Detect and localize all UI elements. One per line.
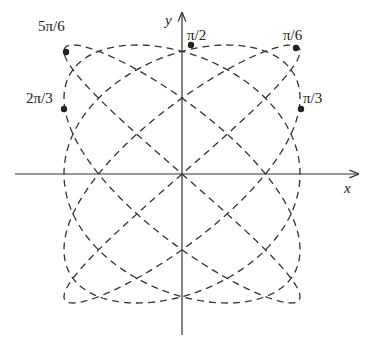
label-pi-2: π/2 [187, 27, 206, 43]
x-axis-label: x [343, 180, 351, 196]
y-axis-label: y [163, 12, 172, 28]
lissajous-figure: x y 5π/6 2π/3 π/2 π/6 π/3 [0, 0, 370, 351]
label-2pi-3: 2π/3 [26, 90, 53, 106]
label-pi-3: π/3 [303, 90, 322, 106]
label-5pi-6: 5π/6 [38, 18, 65, 34]
point-2pi-3 [61, 106, 67, 112]
label-pi-6: π/6 [283, 27, 303, 43]
labeled-points: 5π/6 2π/3 π/2 π/6 π/3 [26, 18, 322, 112]
point-pi-6 [293, 45, 299, 51]
point-5pi-6 [63, 49, 69, 55]
point-pi-3 [298, 106, 304, 112]
